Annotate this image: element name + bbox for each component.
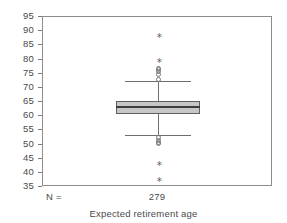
y-axis-tick-label: 60 <box>23 110 34 120</box>
whisker-lower-line <box>158 114 159 135</box>
y-axis-tick-label: 40 <box>23 167 34 177</box>
outlier-point-extreme: ∗ <box>156 177 161 182</box>
n-equals-label: N = <box>46 191 62 202</box>
n-value-label: 279 <box>127 191 187 202</box>
plot-area-frame: ∗∗∗∗ <box>42 16 272 186</box>
plot-area-inner: ∗∗∗∗ <box>43 17 271 185</box>
x-axis-title: Expected retirement age <box>0 208 287 219</box>
outlier-point-mild <box>156 77 161 82</box>
y-axis-tick-label: 75 <box>23 68 34 78</box>
y-axis-tick-label: 65 <box>23 96 34 106</box>
outlier-point-mild <box>156 72 161 77</box>
y-axis-tick-label: 45 <box>23 153 34 163</box>
outlier-point-extreme: ∗ <box>156 58 161 63</box>
outlier-point-mild <box>156 141 161 146</box>
outlier-point-extreme: ∗ <box>156 33 161 38</box>
outlier-point-extreme: ∗ <box>156 161 161 166</box>
median-line <box>116 106 200 108</box>
y-axis-tick-mark <box>38 186 42 187</box>
whisker-upper-line <box>158 81 159 101</box>
y-axis-tick-label: 95 <box>23 11 34 21</box>
y-axis-tick-label: 80 <box>23 54 34 64</box>
y-axis-tick-label: 85 <box>23 39 34 49</box>
y-axis-tick-label: 55 <box>23 124 34 134</box>
boxplot-chart: 95908580757065605550454035 ∗∗∗∗ N = 279 … <box>0 0 287 223</box>
y-axis-tick-labels: 95908580757065605550454035 <box>8 0 34 223</box>
y-axis-tick-label: 50 <box>23 139 34 149</box>
y-axis-tick-label: 35 <box>23 181 34 191</box>
y-axis-tick-label: 70 <box>23 82 34 92</box>
y-axis-tick-label: 90 <box>23 25 34 35</box>
